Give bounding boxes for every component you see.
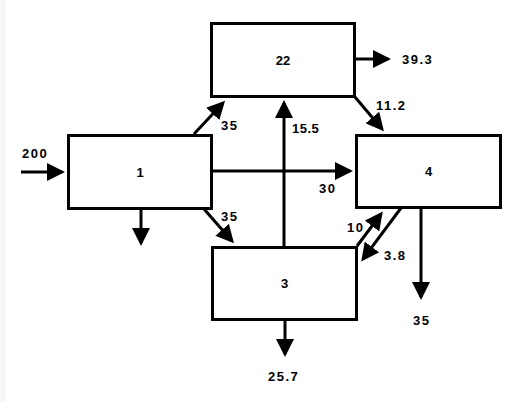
flow-label-3-out: 25.7 <box>268 369 299 384</box>
flow-label-22-out: 39.3 <box>402 52 433 67</box>
node-1-label: 1 <box>136 165 143 180</box>
node-22: 22 <box>210 22 356 98</box>
flow-label-1-to-22: 35 <box>221 118 238 133</box>
flow-label-3-to-22: 15.5 <box>292 121 319 136</box>
flow-diagram: 1 22 3 4 200 35 35 30 15.5 39.3 11.2 10 … <box>0 0 529 402</box>
node-4: 4 <box>355 134 502 209</box>
flow-label-1-to-3: 35 <box>221 209 238 224</box>
node-3-label: 3 <box>281 276 288 291</box>
flow-label-4-out: 35 <box>413 313 430 328</box>
node-22-label: 22 <box>276 53 290 68</box>
node-4-label: 4 <box>425 164 432 179</box>
flow-label-22-to-4: 11.2 <box>376 98 407 113</box>
flow-label-3-to-4: 10 <box>347 220 364 235</box>
node-1: 1 <box>67 134 213 210</box>
flow-label-1-to-4: 30 <box>319 181 336 196</box>
node-3: 3 <box>211 246 358 321</box>
flow-label-4-to-3: 3.8 <box>384 248 407 263</box>
arrow-1-to-22 <box>194 103 223 134</box>
flow-label-input: 200 <box>22 146 48 161</box>
